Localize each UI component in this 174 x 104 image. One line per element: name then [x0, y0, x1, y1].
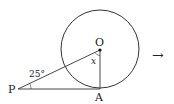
- label-angle-25: 25°: [29, 69, 45, 79]
- label-p: P: [8, 83, 16, 96]
- arrow-icon: →: [152, 47, 164, 63]
- label-angle-x: x: [91, 56, 96, 66]
- label-o: O: [95, 36, 104, 49]
- angle-arc-p: [30, 83, 31, 89]
- geometry-diagram: O P A 25° x →: [0, 0, 174, 104]
- label-a: A: [94, 91, 104, 104]
